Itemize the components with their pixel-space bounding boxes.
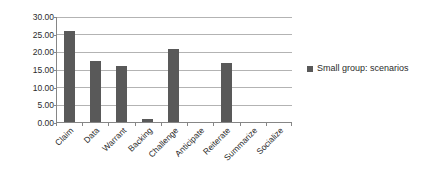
- bar-slot: [56, 17, 82, 122]
- bar-series-group: [56, 17, 292, 122]
- bar-slot: [135, 17, 161, 122]
- y-axis-tick-label: 25.00: [8, 31, 54, 40]
- bar-slot: [82, 17, 108, 122]
- y-axis-labels: 0.005.0010.0015.0020.0025.0030.00: [0, 17, 54, 123]
- y-axis-tick-label: 15.00: [8, 66, 54, 75]
- bar[interactable]: [64, 31, 75, 122]
- bar[interactable]: [90, 61, 101, 122]
- bar-slot: [213, 17, 239, 122]
- bar-slot: [108, 17, 134, 122]
- y-axis-tick-label: 30.00: [8, 13, 54, 22]
- bar[interactable]: [142, 119, 153, 123]
- bar-slot: [161, 17, 187, 122]
- bar-chart: 0.005.0010.0015.0020.0025.0030.00 ClaimD…: [0, 0, 428, 182]
- bar[interactable]: [168, 49, 179, 123]
- bar[interactable]: [116, 66, 127, 122]
- bar[interactable]: [221, 63, 232, 123]
- bar-slot: [187, 17, 213, 122]
- chart-legend: Small group: scenarios: [307, 64, 409, 73]
- y-axis-tick-label: 0.00: [8, 119, 54, 128]
- x-axis-labels: ClaimDataWarrantBackingChallengeAnticipa…: [56, 123, 292, 181]
- legend-swatch: [307, 66, 313, 72]
- legend-label: Small group: scenarios: [317, 64, 409, 73]
- y-axis-tick-label: 5.00: [8, 101, 54, 110]
- y-axis-tick-label: 10.00: [8, 84, 54, 93]
- bar-slot: [266, 17, 292, 122]
- y-axis-tick-label: 20.00: [8, 48, 54, 57]
- bar-slot: [240, 17, 266, 122]
